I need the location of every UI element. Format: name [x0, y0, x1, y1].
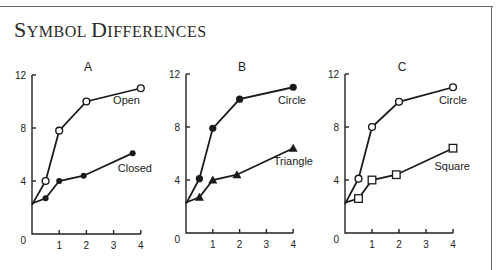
x-tick-label: 1 — [56, 240, 62, 251]
open-circle-marker — [355, 175, 362, 182]
x-tick-label: 3 — [423, 239, 429, 250]
series-label: Closed — [118, 162, 152, 174]
filled-circle-marker — [130, 150, 136, 156]
filled-circle-marker — [290, 84, 297, 91]
x-tick-label: 2 — [84, 240, 90, 251]
series-triangle: Triangle — [186, 144, 313, 203]
filled-circle-marker — [81, 173, 87, 179]
chart-area: A048121234OpenClosedB048121234CircleTria… — [0, 0, 498, 270]
y-tick-label: 8 — [20, 123, 26, 134]
series-closed: Closed — [32, 150, 152, 203]
series-circle: Circle — [186, 84, 306, 204]
series-label: Square — [435, 160, 470, 172]
x-tick-label: 4 — [450, 239, 456, 250]
open-square-marker — [449, 144, 457, 152]
x-tick-label: 1 — [369, 239, 375, 250]
panel-title: B — [238, 60, 246, 74]
series-square: Square — [345, 144, 470, 202]
y-tick-label: 8 — [333, 122, 339, 133]
panel-a: A048121234OpenClosed — [15, 60, 152, 251]
x-tick-label: 3 — [111, 240, 117, 251]
y-tick-label: 4 — [174, 175, 180, 186]
filled-circle-marker — [43, 195, 49, 201]
panel-c: C048121234CircleSquare — [328, 60, 470, 250]
filled-circle-marker — [56, 178, 62, 184]
open-circle-marker — [83, 98, 90, 105]
filled-circle-marker — [236, 96, 243, 103]
open-circle-marker — [137, 85, 144, 92]
series-label: Circle — [278, 94, 306, 106]
panel-b: B048121234CircleTriangle — [169, 60, 313, 250]
x-tick-label: 2 — [237, 239, 243, 250]
open-square-marker — [368, 176, 376, 184]
y-tick-label: 0 — [174, 234, 180, 245]
open-circle-marker — [396, 98, 403, 105]
series-label: Circle — [439, 94, 467, 106]
open-square-marker — [355, 195, 363, 203]
open-circle-marker — [42, 178, 49, 185]
x-tick-label: 4 — [138, 240, 144, 251]
filled-triangle-marker — [289, 144, 298, 152]
series-label: Open — [113, 94, 140, 106]
x-tick-label: 2 — [396, 239, 402, 250]
y-tick-label: 0 — [20, 235, 26, 246]
y-tick-label: 12 — [169, 69, 181, 80]
x-tick-label: 4 — [290, 239, 296, 250]
y-tick-label: 4 — [20, 176, 26, 187]
open-circle-marker — [369, 124, 376, 131]
panel-title: C — [398, 60, 407, 74]
x-tick-label: 3 — [264, 239, 270, 250]
open-circle-marker — [56, 127, 63, 134]
y-tick-label: 12 — [15, 70, 27, 81]
open-square-marker — [393, 171, 401, 179]
y-tick-label: 12 — [328, 69, 340, 80]
x-tick-label: 1 — [210, 239, 216, 250]
series-label: Triangle — [274, 155, 313, 167]
y-tick-label: 8 — [174, 122, 180, 133]
panel-title: A — [84, 60, 92, 74]
y-tick-label: 0 — [333, 234, 339, 245]
series-open: Open — [32, 85, 144, 205]
filled-circle-marker — [209, 125, 216, 132]
open-circle-marker — [450, 84, 457, 91]
y-tick-label: 4 — [333, 175, 339, 186]
filled-circle-marker — [196, 175, 203, 182]
